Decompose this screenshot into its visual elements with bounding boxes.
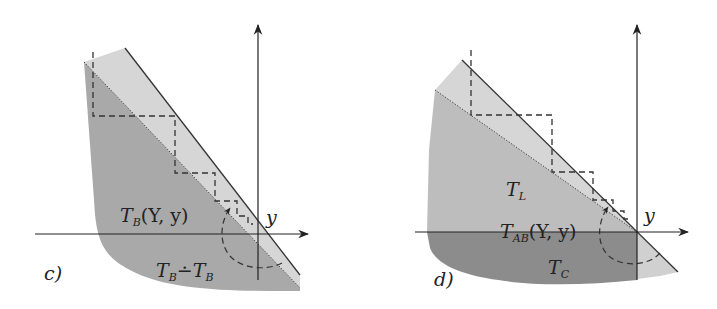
panel-d: y TL TAB(Y, y) TC d): [415, 25, 688, 290]
panel-label-c: c): [44, 262, 62, 284]
label-tab-y-d: TAB(Y, y): [500, 220, 576, 245]
label-tb-y-c: TB(Y, y): [120, 204, 189, 229]
panel-label-d: d): [434, 268, 454, 290]
dark-region-c: [84, 62, 300, 291]
figure-canvas: y TB(Y, y) TB∸TB c) y TL TAB(Y, y) TC d): [0, 0, 717, 309]
panel-c: y TB(Y, y) TB∸TB c): [35, 25, 308, 291]
label-tb-monus-tb-c: TB∸TB: [156, 259, 213, 284]
axis-label-y-c: y: [265, 206, 277, 228]
axis-label-y-d: y: [643, 204, 655, 226]
